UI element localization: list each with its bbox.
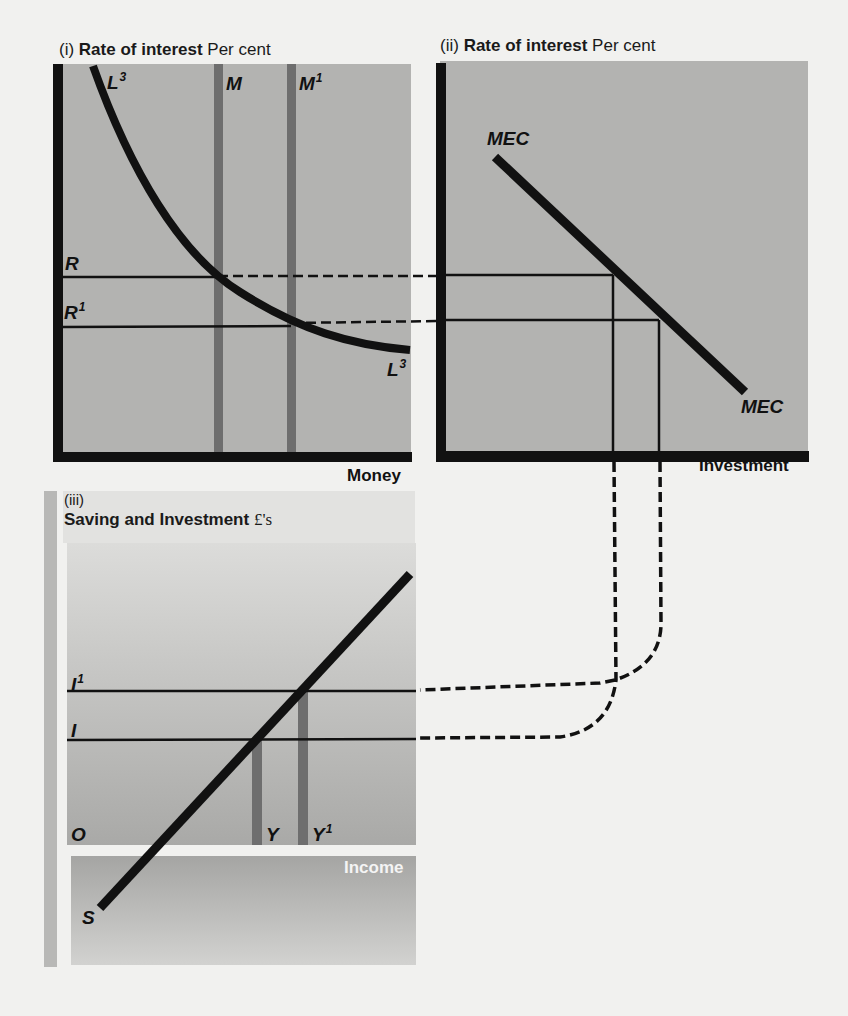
label-i: I: [71, 720, 76, 742]
panel-iii-title: Saving and Investment £'s: [64, 510, 272, 530]
panel-ii-y-axis: [436, 63, 446, 462]
panel-iii-title-text: Saving and Investment: [64, 510, 249, 529]
label-m: M: [226, 73, 242, 95]
panel-ii-title-text: Rate of interest: [464, 36, 588, 55]
income-y-bar: [252, 740, 262, 845]
panel-i-y-axis: [53, 64, 63, 462]
panel-i-prefix: (i): [59, 40, 74, 59]
panel-iii-unit: £'s: [254, 510, 272, 529]
label-l3-top: L3: [107, 70, 126, 94]
panel-i-unit: Per cent: [207, 40, 270, 59]
label-mec-bottom: MEC: [741, 396, 783, 418]
rate-r1-line: [62, 326, 291, 327]
label-y1: Y1: [312, 822, 332, 846]
panel-ii-unit: Per cent: [592, 36, 655, 55]
money-supply-m1-bar: [287, 64, 296, 454]
label-y: Y: [266, 824, 279, 846]
label-r1: R1: [64, 300, 85, 324]
panel-i-x-axis: [53, 452, 412, 462]
label-origin-o: O: [71, 824, 86, 846]
panel-iii-x-axis-label: Income: [344, 858, 404, 878]
panel-i-x-axis-label: Money: [347, 466, 401, 486]
label-l3-bottom: L3: [387, 357, 406, 381]
label-m1: M1: [299, 71, 323, 95]
panel-i-background: [57, 64, 411, 456]
panel-i-graphics: [53, 64, 440, 462]
panel-iii-prefix: (iii): [64, 491, 84, 508]
label-mec-top: MEC: [487, 128, 529, 150]
panel-iii-plot-upper: [67, 543, 416, 845]
diagram-graphics: [0, 0, 848, 1016]
investment-i-line: [67, 739, 416, 740]
connector-to-i1: [420, 462, 661, 690]
label-i1: I1: [71, 672, 84, 696]
panel-ii-x-axis-label: Investment: [699, 456, 789, 476]
panel-iii-left-bar: [44, 491, 57, 967]
panel-iii-graphics: [44, 491, 416, 967]
panel-i-title-text: Rate of interest: [79, 40, 203, 59]
money-supply-m-bar: [214, 64, 223, 454]
connector-dashes: [420, 462, 661, 738]
label-s: S: [82, 907, 95, 929]
connector-to-i: [420, 462, 616, 738]
diagram-stage: (i) Rate of interest Per cent L3 M M1 R …: [0, 0, 848, 1016]
panel-i-title: (i) Rate of interest Per cent: [59, 40, 271, 60]
label-r: R: [65, 253, 79, 275]
panel-ii-prefix: (ii): [440, 36, 459, 55]
income-y1-bar: [298, 691, 308, 845]
panel-ii-title: (ii) Rate of interest Per cent: [440, 36, 655, 56]
